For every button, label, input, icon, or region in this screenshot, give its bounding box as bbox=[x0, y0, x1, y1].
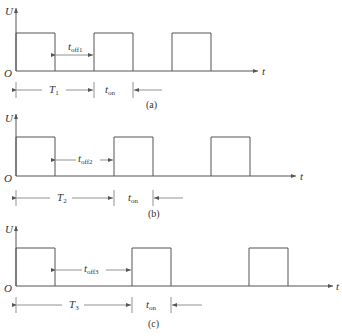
panel-c: U t O toff3 T3 ton (c) bbox=[4, 223, 340, 330]
panel-caption: (b) bbox=[148, 208, 160, 220]
pulse bbox=[16, 137, 55, 176]
panel-caption: (c) bbox=[148, 318, 159, 330]
period-label: T1 bbox=[49, 83, 59, 97]
y-axis-label: U bbox=[5, 112, 14, 124]
pulse bbox=[132, 248, 171, 286]
square-wave-diagram: U t O toff1 T1 ton (a) U t O toff2 bbox=[0, 0, 342, 336]
panel-a: U t O toff1 T1 ton (a) bbox=[4, 5, 266, 111]
on-time-label: ton bbox=[128, 191, 139, 205]
pulse bbox=[16, 248, 55, 286]
x-axis-label: t bbox=[300, 170, 304, 182]
period-label: T3 bbox=[69, 298, 79, 312]
pulse bbox=[114, 137, 153, 176]
y-axis-label: U bbox=[5, 223, 14, 235]
on-time-label: ton bbox=[146, 298, 157, 312]
panel-b: U t O toff2 T2 ton (b) bbox=[4, 112, 304, 220]
origin-label: O bbox=[4, 282, 12, 294]
pulse bbox=[249, 248, 288, 286]
period-label: T2 bbox=[57, 191, 67, 205]
pulse bbox=[16, 33, 55, 71]
origin-label: O bbox=[4, 67, 12, 79]
on-time-label: ton bbox=[105, 83, 116, 97]
pulse bbox=[172, 33, 211, 71]
x-axis-label: t bbox=[336, 280, 340, 292]
panel-caption: (a) bbox=[146, 99, 157, 111]
origin-label: O bbox=[4, 172, 12, 184]
pulse bbox=[211, 137, 250, 176]
y-axis-label: U bbox=[5, 5, 14, 17]
pulse bbox=[94, 33, 133, 71]
x-axis-label: t bbox=[262, 65, 266, 77]
